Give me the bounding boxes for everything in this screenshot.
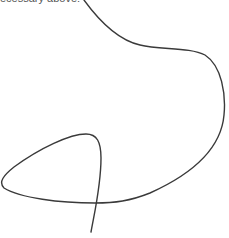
freehand-curve-drawing	[0, 0, 229, 238]
curve-path	[2, 0, 225, 232]
